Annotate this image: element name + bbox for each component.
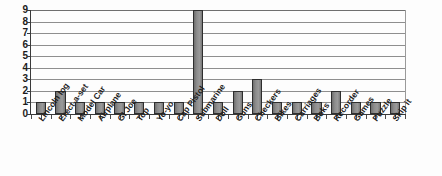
bar-chart: 0123456789 Lincoln logErect-a-setModel C… (0, 0, 442, 176)
x-axis-labels: Lincoln logErect-a-setModel CarAirplaneG… (0, 118, 442, 176)
y-axis-labels: 0123456789 (16, 10, 28, 114)
